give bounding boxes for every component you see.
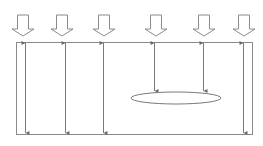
- block-arrow-down-icon: [145, 15, 167, 36]
- block-arrow-down-icon: [233, 15, 255, 36]
- block-arrow-down-icon: [193, 15, 215, 36]
- block-arrow-down-icon: [51, 15, 73, 36]
- block-arrow-down-icon: [93, 15, 115, 36]
- load-arrows-group: [12, 15, 255, 36]
- ellipse-inclusion: [131, 92, 221, 104]
- diagram-canvas: [0, 0, 263, 146]
- span-arrows-group: [26, 43, 244, 133]
- block-arrow-down-icon: [12, 15, 34, 36]
- container-box: [17, 43, 253, 135]
